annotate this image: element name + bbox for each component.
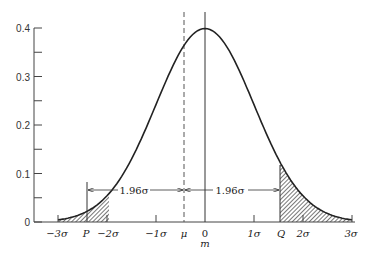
y-tick-label-0.1: 0.1: [16, 169, 30, 180]
x-tick-label-p: P: [82, 228, 90, 239]
left-span-label: 1.96σ: [119, 185, 148, 196]
x-tick-label-mu: μ: [181, 228, 188, 239]
x-tick-label-q: Q: [277, 228, 285, 239]
normal-distribution-chart: 1.96σ 1.96σ 0.4 0.3 0.2 0.1 0 −3σ P −2σ …: [0, 0, 373, 255]
x-tick-label-minus-1sigma: −1σ: [145, 228, 168, 239]
chart-svg: 1.96σ 1.96σ 0.4 0.3 0.2 0.1 0 −3σ P −2σ …: [0, 0, 373, 255]
right-tail-region: [280, 162, 352, 222]
x-tick-label-1sigma: 1σ: [247, 228, 261, 239]
y-tick-label-0: 0: [24, 217, 30, 228]
y-tick-label-0.4: 0.4: [16, 23, 30, 34]
y-ticks: [34, 28, 42, 222]
x-tick-label-minus-3sigma: −3σ: [46, 228, 69, 239]
y-tick-label-0.3: 0.3: [16, 72, 30, 83]
x-tick-label-2sigma: 2σ: [295, 228, 310, 239]
left-tail-region: [58, 194, 109, 222]
x-tick-label-3sigma: 3σ: [344, 228, 358, 239]
x-tick-label-minus-2sigma: −2σ: [97, 228, 120, 239]
x-tick-sublabel-m: m: [200, 238, 209, 249]
y-tick-label-0.2: 0.2: [16, 120, 30, 131]
right-span-label: 1.96σ: [215, 185, 244, 196]
